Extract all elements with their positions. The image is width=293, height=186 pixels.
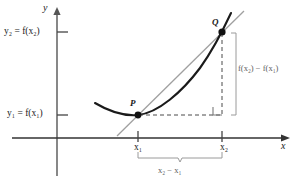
y1-value-label: y₁ = f(x₁)	[7, 109, 43, 119]
point-P-label: P	[130, 99, 136, 108]
y-axis-arrowhead	[53, 7, 60, 15]
run-measurement-label: x₂ − x₁	[158, 166, 181, 175]
x-axis-label: x	[281, 141, 285, 151]
x2-tick-label: x₂	[220, 143, 228, 153]
point-Q-label: Q	[212, 18, 219, 27]
point-P-marker	[135, 112, 142, 119]
run-brace	[138, 152, 222, 162]
y-axis-label: y	[43, 3, 47, 13]
right-angle-marker	[213, 107, 222, 115]
x1-tick-label: x₁	[134, 143, 142, 153]
rise-measurement-label: f(x₂) − f(x₁)	[238, 64, 278, 73]
point-Q-marker	[218, 28, 225, 35]
y2-value-label: y₂ = f(x₂)	[4, 27, 40, 37]
rise-bracket	[231, 33, 236, 115]
secant-line-diagram: y₂ = f(x₂) y₁ = f(x₁) y x x₁ x₂ P Q f(x₂…	[0, 0, 293, 186]
function-curve	[95, 13, 231, 115]
diagram-canvas	[0, 0, 293, 186]
